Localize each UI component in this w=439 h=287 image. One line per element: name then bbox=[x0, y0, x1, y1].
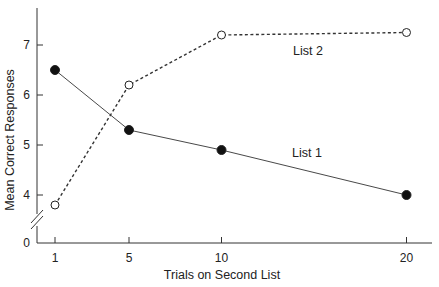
y-tick-label: 7 bbox=[23, 38, 30, 52]
data-point-list-2 bbox=[403, 29, 411, 37]
series-line-list-1 bbox=[55, 70, 407, 195]
y-ticks: 04567 bbox=[23, 38, 43, 250]
x-tick-label: 5 bbox=[126, 251, 133, 265]
x-tick-label: 20 bbox=[400, 251, 414, 265]
y-tick-label: 0 bbox=[23, 236, 30, 250]
x-axis-label: Trials on Second List bbox=[164, 268, 281, 282]
data-point-list-2 bbox=[51, 201, 59, 209]
series-label-list-2: List 2 bbox=[293, 44, 323, 58]
data-point-list-1 bbox=[217, 146, 226, 155]
series-label-list-1: List 1 bbox=[292, 146, 322, 160]
y-tick-label: 5 bbox=[23, 138, 30, 152]
data-point-list-2 bbox=[125, 81, 133, 89]
data-point-list-1 bbox=[402, 191, 411, 200]
series-layer bbox=[51, 29, 412, 210]
data-point-list-2 bbox=[218, 31, 226, 39]
line-chart: 04567 151020 Trials on Second List Mean … bbox=[0, 0, 439, 287]
axes bbox=[31, 8, 432, 243]
data-point-list-1 bbox=[51, 66, 60, 75]
x-ticks: 151020 bbox=[52, 237, 414, 265]
x-tick-label: 1 bbox=[52, 251, 59, 265]
x-tick-label: 10 bbox=[215, 251, 229, 265]
series-line-list-2 bbox=[55, 33, 407, 206]
y-axis-label: Mean Correct Responses bbox=[3, 69, 17, 211]
y-tick-label: 6 bbox=[23, 88, 30, 102]
data-point-list-1 bbox=[125, 126, 134, 135]
y-tick-label: 4 bbox=[23, 188, 30, 202]
